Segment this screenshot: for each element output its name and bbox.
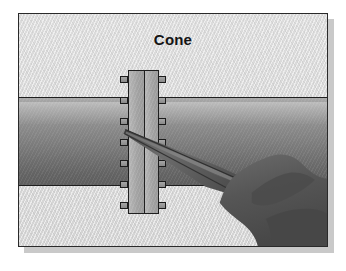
flange-bolt-left-1 [120,76,128,83]
flange-bolt-right-6 [158,181,166,188]
pipe-body [18,97,328,186]
flange-plate-left [128,70,145,214]
flange-bolt-left-6 [120,181,128,188]
flange-bolt-left-4 [120,139,128,146]
pipe-highlight [18,102,328,124]
flange-bolt-right-2 [158,97,166,104]
flange-bolt-right-7 [158,202,166,209]
flange-bolt-right-4 [158,139,166,146]
flange-plate-right [144,70,159,214]
page-title: Cone [19,31,327,48]
flange-bolt-right-3 [158,118,166,125]
flange-bolt-left-5 [120,160,128,167]
figure-root: Cone [0,0,346,271]
flange-assembly [120,70,166,214]
flange-bolt-left-7 [120,202,128,209]
flange-bolt-right-5 [158,160,166,167]
flange-bolt-right-1 [158,76,166,83]
flange-bolt-left-3 [120,118,128,125]
illustration-frame: Cone [18,13,328,247]
flange-bolt-left-2 [120,97,128,104]
